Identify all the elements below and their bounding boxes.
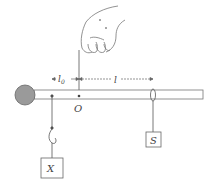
lever-diagram: O l0 l X S: [0, 0, 216, 188]
pivot-label: O: [74, 103, 82, 114]
pivot-point: [78, 95, 81, 98]
hand-icon: [81, 6, 125, 53]
rod: [34, 90, 203, 99]
left-distance-marker: [52, 78, 79, 81]
ball: [15, 85, 35, 105]
right-distance-label: l: [114, 75, 117, 85]
left-distance-label: l0: [58, 74, 65, 85]
mass-x-label: X: [46, 163, 55, 174]
mass-s-label: S: [150, 135, 157, 146]
left-hanger: [49, 95, 56, 158]
